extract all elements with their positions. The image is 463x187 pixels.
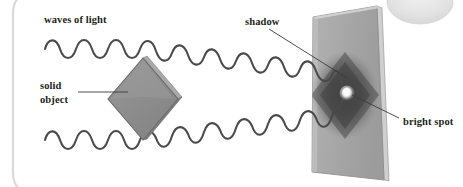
label-waves-of-light: waves of light	[44, 14, 107, 25]
diffraction-diagram: waves of light solid object shadow brigh…	[0, 0, 463, 187]
bright-spot	[340, 86, 355, 101]
solid-object	[108, 56, 182, 140]
label-bright-spot: bright spot	[403, 116, 454, 127]
bright-spot-core	[342, 87, 352, 99]
page-edge-border	[13, 0, 31, 187]
diagram-canvas: waves of light solid object shadow brigh…	[0, 0, 463, 187]
wave-bottom	[45, 95, 346, 149]
wave-top	[45, 40, 346, 92]
label-shadow: shadow	[245, 16, 280, 27]
label-solid-object-line1: solid	[40, 80, 62, 91]
label-solid-object-line2: object	[40, 94, 68, 105]
light-source-glow	[387, 0, 453, 24]
